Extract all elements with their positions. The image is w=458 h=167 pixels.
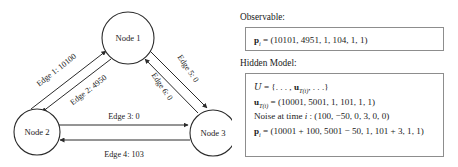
hidden-model-equation-box: U = {. . . , uT(i), . . .} uT(i) = (1000…: [245, 73, 444, 157]
hidden-model-heading: Hidden Model:: [240, 58, 297, 69]
screenshot-root: Node 1 Node 2 Node 3 Edge 1: 10100 Edge …: [0, 0, 458, 167]
observed-vector-equation: pi = (10001 + 100, 5001 − 50, 1, 101 + 3…: [246, 124, 443, 139]
universe-set-symbol: U: [254, 82, 262, 92]
noise-prefix: Noise at time: [254, 111, 305, 121]
hidden-u-value: = (10001, 5001, 1, 101, 1, 1): [268, 97, 375, 107]
edge-1-label: Edge 1: 10100: [35, 52, 78, 88]
node-3-label: Node 3: [200, 128, 225, 138]
observable-heading: Observable:: [240, 12, 285, 23]
hidden-vector-equation: uT(i) = (10001, 5001, 1, 101, 1, 1): [246, 95, 443, 110]
graph-diagram: Node 1 Node 2 Node 3 Edge 1: 10100 Edge …: [0, 0, 232, 167]
observable-equation-box: pi = (10101, 4951, 1, 104, 1, 1): [245, 27, 444, 51]
noise-equation: Noise at time i : (100, −50, 0, 3, 0, 0): [246, 109, 443, 124]
observable-p-value: = (10101, 4951, 1, 104, 1, 1): [261, 35, 368, 45]
graph-canvas: Node 1 Node 2 Node 3 Edge 1: 10100 Edge …: [0, 0, 232, 167]
node-2-label: Node 2: [24, 127, 49, 137]
edge-2-label: Edge 2: 4950: [68, 73, 108, 107]
observed-p-value: = (10001 + 100, 5001 − 50, 1, 101 + 3, 1…: [261, 126, 424, 136]
universe-u-subscript: T(i): [299, 87, 308, 94]
hidden-set-definition: U = {. . . , uT(i), . . .}: [246, 74, 443, 95]
model-panel: Observable: pi = (10101, 4951, 1, 104, 1…: [232, 0, 458, 167]
edge-4-label: Edge 4: 103: [104, 150, 144, 159]
noise-value: : (100, −50, 0, 3, 0, 0): [307, 111, 389, 121]
universe-set-open: = {. . . ,: [262, 82, 294, 92]
hidden-u-subscript: T(i): [259, 101, 268, 108]
observable-equation: pi = (10101, 4951, 1, 104, 1, 1): [246, 28, 443, 48]
edge-3-label: Edge 3: 0: [108, 112, 139, 121]
universe-set-close: , . . .}: [308, 82, 328, 92]
node-1-label: Node 1: [115, 33, 140, 43]
edge-5-label: Edge 5: 0: [176, 53, 201, 84]
